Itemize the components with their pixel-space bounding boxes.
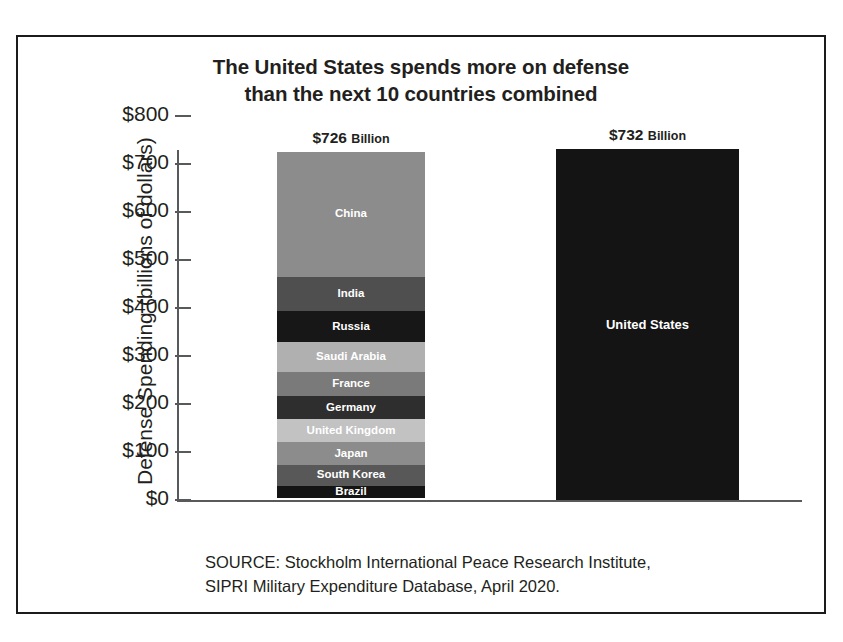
bar-segment-russia: Russia <box>277 311 425 342</box>
bar-segment-label: United States <box>606 318 689 331</box>
y-tick-mark <box>175 355 191 357</box>
bar-segment-label: Saudi Arabia <box>316 351 386 363</box>
bar-segment-india: India <box>277 277 425 311</box>
bar-total-label-next-10: $726 Billion <box>312 129 389 147</box>
y-tick-mark <box>175 163 191 165</box>
y-tick-mark <box>175 211 191 213</box>
y-tick-label: $200 <box>71 390 169 414</box>
y-tick-mark <box>175 259 191 261</box>
bar-united-states: United States $732 Billion <box>556 149 739 500</box>
y-axis-title: Defense Spending (billions of dollars) <box>159 0 183 165</box>
bar-segment-label: Russia <box>332 321 370 333</box>
y-tick-mark <box>175 307 191 309</box>
bar-total-amount: $726 <box>312 129 346 146</box>
bar-segment-label: Brazil <box>335 486 366 498</box>
plot-area: Defense Spending (billions of dollars) $… <box>177 115 808 540</box>
bar-segment-brazil: Brazil <box>277 486 425 498</box>
y-axis-line <box>177 150 179 501</box>
bar-segment-label: India <box>338 288 365 300</box>
bar-next-10-countries: ChinaIndiaRussiaSaudi ArabiaFranceGerman… <box>277 152 425 500</box>
bar-segment-label: Germany <box>326 402 376 414</box>
bar-total-unit: Billion <box>351 132 389 146</box>
bar-segment-france: France <box>277 372 425 396</box>
chart-title-line-1: The United States spends more on defense <box>18 53 824 80</box>
bar-total-amount: $732 <box>609 126 643 143</box>
bar-total-unit: Billion <box>648 129 686 143</box>
bar-segment-label: Japan <box>334 448 367 460</box>
bar-segment-united-states: United States <box>556 149 739 500</box>
x-axis-baseline <box>177 500 802 502</box>
bar-segment-south-korea: South Korea <box>277 465 425 486</box>
bar-segment-label: South Korea <box>317 469 385 481</box>
y-tick-label: $400 <box>71 294 169 318</box>
bar-segment-china: China <box>277 152 425 277</box>
bar-segment-label: France <box>332 378 370 390</box>
y-tick-mark <box>175 403 191 405</box>
source-line-1: SOURCE: Stockholm International Peace Re… <box>205 551 651 574</box>
y-tick-label: $500 <box>71 246 169 270</box>
y-tick-label: $600 <box>71 198 169 222</box>
bar-segment-label: China <box>335 208 367 220</box>
y-tick-label: $700 <box>71 150 169 174</box>
chart-title: The United States spends more on defense… <box>18 53 824 107</box>
y-tick-mark <box>175 499 191 501</box>
y-tick-label: $300 <box>71 342 169 366</box>
source-note: SOURCE: Stockholm International Peace Re… <box>205 551 651 598</box>
y-tick-label: $0 <box>71 486 169 510</box>
bar-total-label-us: $732 Billion <box>609 126 686 144</box>
y-tick-label: $100 <box>71 438 169 462</box>
bar-segment-saudi-arabia: Saudi Arabia <box>277 342 425 372</box>
bar-segment-united-kingdom: United Kingdom <box>277 419 425 442</box>
bar-segment-japan: Japan <box>277 442 425 465</box>
y-tick-label: $800 <box>71 102 169 126</box>
bar-segment-germany: Germany <box>277 396 425 420</box>
y-tick-mark <box>175 451 191 453</box>
source-line-2: SIPRI Military Expenditure Database, Apr… <box>205 575 651 598</box>
y-tick-mark <box>175 115 191 117</box>
chart-figure: The United States spends more on defense… <box>16 35 826 614</box>
bar-segment-label: United Kingdom <box>307 425 396 437</box>
